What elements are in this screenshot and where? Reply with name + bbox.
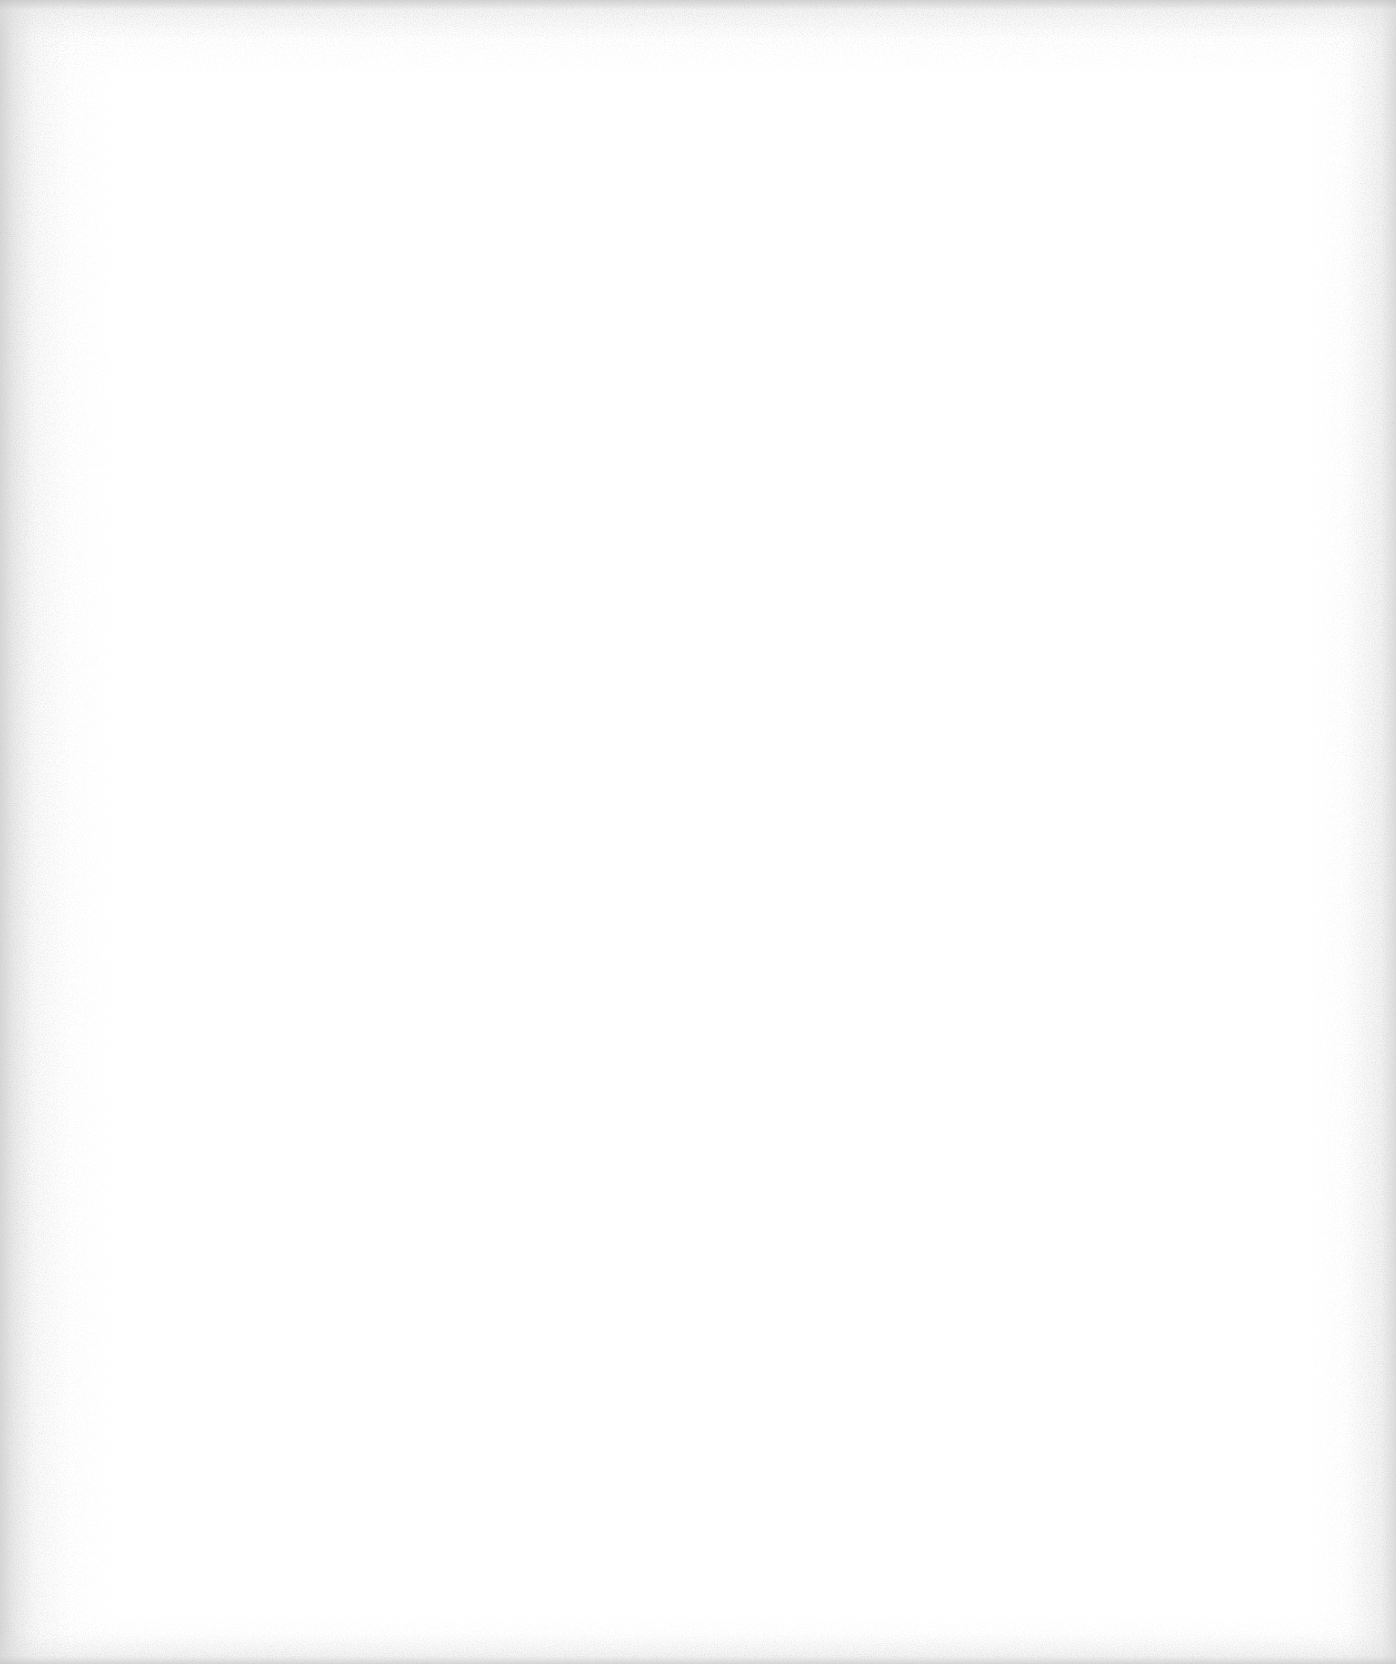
blank-scanned-page	[0, 0, 1396, 1664]
scan-edge-top	[0, 0, 1396, 40]
scan-edge-bottom	[0, 1634, 1396, 1664]
scan-edge-left	[0, 0, 70, 1664]
scan-speckle-noise	[0, 0, 1396, 1664]
scan-edge-right	[1346, 0, 1396, 1664]
